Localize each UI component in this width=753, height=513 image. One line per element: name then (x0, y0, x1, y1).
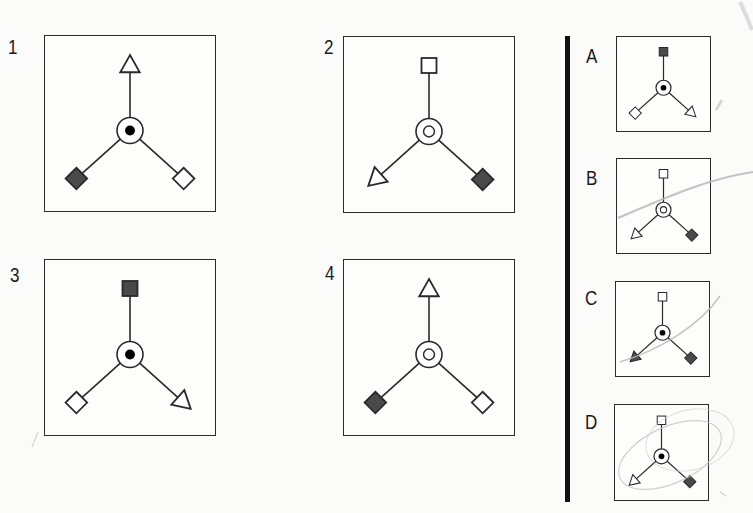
pencil-check (720, 492, 726, 496)
option-label-d: D (585, 411, 597, 434)
top-square-icon (659, 48, 668, 57)
answer-option-b[interactable] (616, 158, 711, 254)
figure-drawing (615, 405, 708, 500)
right-arm-line (140, 139, 184, 178)
right-triangle-icon (171, 390, 190, 409)
top-square-icon (659, 170, 668, 179)
figure-label-2: 2 (324, 36, 333, 59)
left-arm-line (375, 363, 419, 402)
figure-label-1: 1 (8, 36, 17, 59)
option-label-b: B (586, 167, 597, 190)
top-square-icon (658, 293, 667, 302)
left-arm-line (76, 363, 120, 402)
answer-option-c[interactable] (615, 281, 710, 377)
center-dot-icon (659, 453, 665, 459)
figure-drawing (617, 159, 710, 253)
answer-option-d[interactable] (614, 404, 709, 501)
corner-smudge (740, 2, 752, 30)
figure-drawing (45, 36, 215, 211)
center-dot-icon (125, 126, 135, 136)
center-dot-icon (660, 330, 666, 336)
center-ring-icon (660, 207, 666, 213)
center-dot-icon (661, 85, 667, 91)
option-label-a: A (586, 45, 597, 68)
left-triangle-icon (368, 167, 387, 186)
right-arm-line (439, 140, 483, 179)
option-label-c: C (585, 287, 597, 310)
question-figure-1[interactable] (44, 35, 216, 212)
side-smudge (716, 100, 722, 110)
left-arm-line (76, 139, 120, 178)
figure-drawing (344, 37, 514, 212)
figure-label-4: 4 (325, 262, 334, 285)
top-square-icon (123, 281, 138, 296)
figure-drawing (45, 260, 215, 435)
top-triangle-icon (419, 279, 439, 296)
left-arm-line (375, 140, 419, 179)
center-ring-icon (424, 349, 435, 360)
divider-bar (565, 36, 570, 502)
answer-option-a[interactable] (616, 36, 711, 132)
figure-drawing (617, 37, 710, 131)
figure-drawing (344, 260, 514, 435)
question-figure-4[interactable] (343, 259, 515, 436)
top-square-icon (657, 416, 666, 425)
top-square-icon (422, 58, 437, 73)
center-ring-icon (424, 126, 435, 137)
question-figure-3[interactable] (44, 259, 216, 436)
center-dot-icon (125, 350, 135, 360)
figure-drawing (616, 282, 709, 376)
tick-mark (32, 432, 38, 447)
figure-label-3: 3 (10, 264, 19, 287)
top-triangle-icon (120, 55, 140, 72)
right-arm-line (439, 363, 483, 402)
question-figure-2[interactable] (343, 36, 515, 213)
right-arm-line (140, 363, 184, 402)
